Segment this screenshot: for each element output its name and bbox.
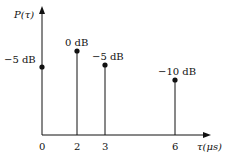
y-axis-arrow-icon [39, 6, 45, 14]
x-tick-label: 3 [102, 141, 108, 152]
stem-dot [39, 64, 44, 69]
stem-dot [102, 62, 107, 67]
stem-label: −5 dB [4, 54, 36, 65]
stem-dot [172, 77, 177, 82]
stem-tau-3: −5 dB [92, 51, 124, 135]
x-axis-arrow-icon [203, 132, 211, 138]
stem-tau-0: −5 dB [4, 54, 45, 70]
x-tick-label: 0 [39, 141, 45, 152]
stem-tau-6: −10 dB [158, 66, 196, 135]
stem-dot [74, 48, 79, 53]
stem-tau-2: 0 dB [65, 37, 88, 135]
stem-label: −10 dB [158, 66, 196, 77]
x-tick-label: 2 [74, 141, 80, 152]
y-axis-label: P(τ) [13, 9, 34, 20]
x-axis-label: τ(μs) [197, 141, 222, 152]
stem-label: −5 dB [92, 51, 124, 62]
x-tick-label: 6 [172, 141, 178, 152]
stem-label: 0 dB [65, 37, 88, 48]
power-delay-profile-diagram: P(τ) τ(μs) −5 dB 0 dB −5 dB −10 dB 0 2 3… [0, 0, 230, 160]
